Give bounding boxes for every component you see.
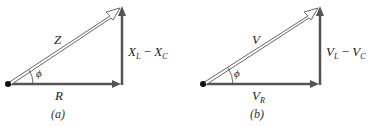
resistance-arrowhead-icon — [112, 80, 121, 88]
total-voltage-label: V — [252, 32, 262, 47]
panel-b-caption: (b) — [250, 107, 264, 121]
resistance-label: R — [54, 88, 63, 103]
panel-a: Z ϕ R XL − XC (a) — [5, 6, 168, 121]
resistor-voltage-arrowhead-icon — [310, 80, 319, 88]
reactance-label: XL − XC — [127, 44, 168, 61]
resistor-voltage-label: VR — [252, 88, 265, 105]
reactance-arrowhead-icon — [118, 6, 126, 16]
phasor-diagrams: Z ϕ R XL − XC (a) V ϕ VR VL − VC (b) — [0, 0, 370, 127]
panel-b: V ϕ VR VL − VC (b) — [200, 6, 366, 121]
impedance-vector — [8, 8, 120, 86]
reactive-voltage-arrowhead-icon — [316, 6, 324, 16]
origin-dot — [200, 81, 206, 87]
phase-angle-label: ϕ — [234, 67, 240, 79]
impedance-label: Z — [54, 32, 62, 47]
total-voltage-vector — [203, 8, 318, 86]
panel-a-caption: (a) — [51, 107, 65, 121]
origin-dot — [5, 81, 11, 87]
reactive-voltage-label: VL − VC — [326, 44, 366, 61]
phase-angle-label: ϕ — [36, 67, 42, 79]
